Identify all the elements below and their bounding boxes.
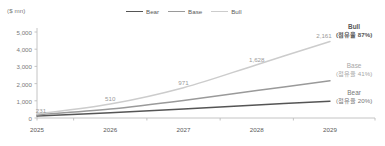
y-tick-label: 2,000	[4, 80, 32, 87]
x-tick-label: 2028	[250, 126, 264, 133]
annotation-bear: Bear(점유율 20%)	[336, 89, 372, 105]
annotation-base: Base(점유율 41%)	[336, 62, 372, 78]
annotation-series-name: Bull	[336, 23, 372, 31]
y-tick-label: 1,000	[4, 97, 32, 104]
y-tick-label: 3,000	[4, 63, 32, 70]
annotation-series-name: Bear	[336, 89, 372, 97]
annotation-share-value: (점유율 20%)	[336, 97, 372, 105]
y-tick-label: 0	[4, 115, 32, 122]
annotation-series-name: Base	[336, 62, 372, 70]
annotation-share-value: (점유율 87%)	[336, 31, 372, 39]
annotation-bull: Bull(점유율 87%)	[336, 23, 372, 39]
data-point-label: 231	[36, 107, 46, 114]
x-tick-label: 2026	[103, 126, 117, 133]
x-tick-label: 2025	[30, 126, 44, 133]
scenario-line-chart: ($ mn) Bear Base Bull 01,0002,0003,0004,…	[0, 0, 385, 146]
y-tick-label: 4,000	[4, 46, 32, 53]
plot-svg	[0, 0, 385, 146]
data-point-label: 1,628	[249, 55, 264, 62]
data-point-label: 971	[178, 78, 188, 85]
plot-area: 01,0002,0003,0004,0005,000 2025202620272…	[0, 0, 385, 146]
x-tick-label: 2029	[323, 126, 337, 133]
x-tick-label: 2027	[177, 126, 191, 133]
data-point-label: 2,161	[316, 32, 331, 39]
y-tick-label: 5,000	[4, 29, 32, 36]
annotation-share-value: (점유율 41%)	[336, 70, 372, 78]
axis-layer	[35, 28, 376, 121]
data-point-label: 510	[105, 95, 115, 102]
